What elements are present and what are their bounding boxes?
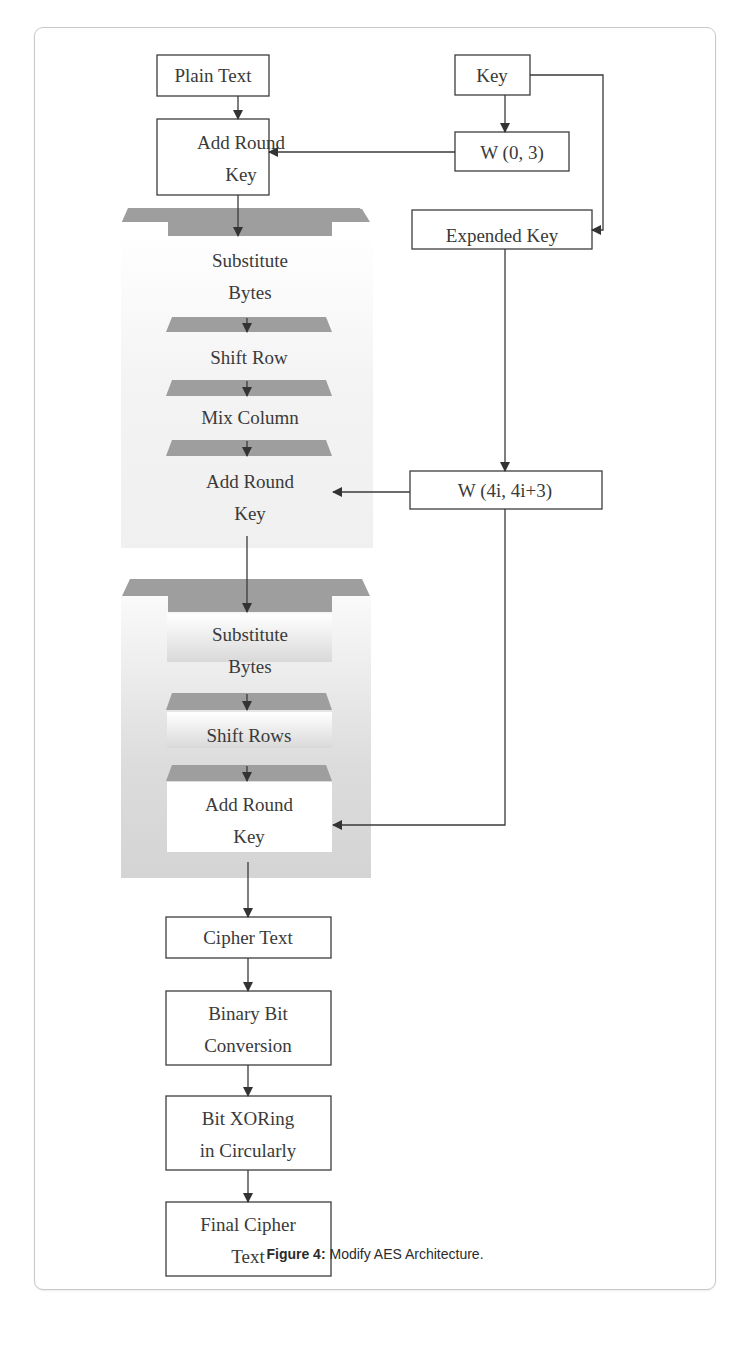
bit-xoring-label-2: in Circularly [200,1140,297,1161]
w-4i-label: W (4i, 4i+3) [458,480,552,502]
mix-column-label: Mix Column [201,407,299,428]
band-5 [166,693,332,710]
caption-text: Modify AES Architecture. [326,1246,484,1262]
binary-bit-label: Binary Bit [208,1003,288,1024]
final-substitute-bytes-label: Substitute [212,624,288,645]
final-add-round-key-label: Add Round [205,794,294,815]
key-label: Key [476,65,508,86]
final-cipher-text-label: Final Cipher [200,1214,296,1235]
plain-text-label: Plain Text [175,65,253,86]
bit-xoring-label: Bit XORing [202,1108,295,1129]
add-round-key-label-2: Key [225,164,257,185]
final-substitute-bytes-label-2: Bytes [228,656,271,677]
band-3 [166,380,332,396]
band-6 [166,765,332,781]
cipher-text-label: Cipher Text [203,927,293,948]
add-round-key-label: Add Round [197,132,286,153]
shift-row-label: Shift Row [210,347,288,368]
band-4 [166,440,332,456]
binary-bit-label-2: Conversion [204,1035,292,1056]
aes-architecture-diagram: Plain Text Add Round Key Key W (0, 3) Ex… [0,0,748,1370]
expended-key-label: Expended Key [446,225,559,246]
w-0-3-label: W (0, 3) [480,142,544,164]
band-top-1 [122,208,370,236]
round-add-round-key-label: Add Round [206,471,295,492]
shift-rows-label: Shift Rows [207,725,292,746]
band-2 [166,317,332,332]
caption-label: Figure 4: [266,1246,325,1262]
substitute-bytes-label: Substitute [212,250,288,271]
figure-caption: Figure 4: Modify AES Architecture. [34,1246,716,1262]
substitute-bytes-label-2: Bytes [228,282,271,303]
final-add-round-key-label-2: Key [233,826,265,847]
round-add-round-key-label-2: Key [234,503,266,524]
